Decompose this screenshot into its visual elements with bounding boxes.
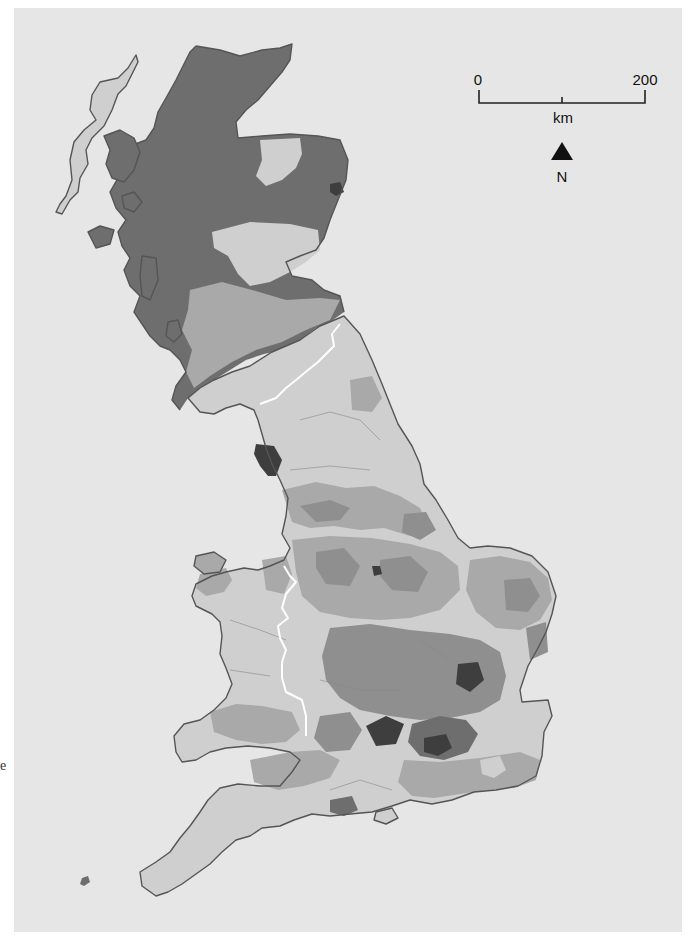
- scale-end-label: 200: [632, 71, 657, 88]
- scale-unit-label: km: [553, 109, 573, 126]
- region-isles-of-scilly: [80, 876, 90, 886]
- north-arrow-label: N: [557, 168, 568, 185]
- region-england-wales: [140, 316, 556, 896]
- great-britain-map: 0 200 km N: [0, 0, 693, 946]
- north-arrow: N: [551, 142, 573, 185]
- region-anglesey: [194, 552, 226, 574]
- scale-bar: 0 200 km: [474, 71, 658, 126]
- north-arrow-icon: [551, 142, 573, 160]
- scale-start-label: 0: [474, 71, 482, 88]
